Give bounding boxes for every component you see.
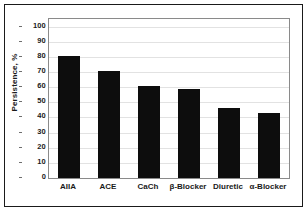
y-axis-tick-label: 30 (24, 128, 46, 136)
gridline (49, 57, 289, 58)
y-axis-tick-label: 40 (24, 112, 46, 120)
bar (138, 86, 160, 178)
y-axis-tick-label: 90 (24, 37, 46, 45)
x-axis-tick-labels: AIIAACECaChβ-BlockerDiureticα-Blocker (48, 182, 290, 196)
x-axis-tick-label: Diuretic (208, 182, 248, 192)
x-axis-tick-label: CaCh (128, 182, 168, 192)
y-axis-tick-mark (19, 177, 22, 178)
bar (98, 71, 120, 178)
y-axis-tick-label: 70 (24, 67, 46, 75)
chart-figure: Persistence, % 0102030405060708090100 AI… (0, 0, 308, 212)
gridline (49, 72, 289, 73)
plot-inner (49, 19, 289, 178)
x-axis-tick-label: AIIA (48, 182, 88, 192)
gridline (49, 133, 289, 134)
gridline (49, 117, 289, 118)
bar (178, 89, 200, 178)
gridline (49, 163, 289, 164)
gridline (49, 27, 289, 28)
y-axis-tick-mark (19, 116, 22, 117)
gridline (49, 87, 289, 88)
y-axis-tick-mark (19, 162, 22, 163)
y-axis-tick-label: 100 (24, 22, 46, 30)
y-axis-tick-mark (19, 41, 22, 42)
x-axis-tick-label: ACE (88, 182, 128, 192)
chart-canvas: Persistence, % 0102030405060708090100 AI… (0, 0, 308, 212)
y-axis-tick-label: 80 (24, 52, 46, 60)
bar (258, 113, 280, 178)
y-axis-tick-label: 50 (24, 97, 46, 105)
y-axis-tick-label: 20 (24, 143, 46, 151)
gridline (49, 102, 289, 103)
y-axis-tick-mark (19, 56, 22, 57)
y-axis-tick-label: 0 (24, 173, 46, 181)
y-axis-tick-labels: 0102030405060708090100 (22, 18, 46, 179)
y-axis-tick-mark (19, 132, 22, 133)
gridline (49, 148, 289, 149)
x-axis-tick-label: α-Blocker (248, 182, 288, 192)
y-axis-tick-label: 10 (24, 158, 46, 166)
y-axis-tick-mark (19, 86, 22, 87)
y-axis-tick-label: 60 (24, 82, 46, 90)
plot-area (48, 18, 290, 179)
y-axis-tick-mark (19, 147, 22, 148)
y-axis-title: Persistence, % (10, 23, 19, 143)
x-axis-tick-label: β-Blocker (168, 182, 208, 192)
gridline (49, 42, 289, 43)
y-axis-tick-mark (19, 101, 22, 102)
bar (218, 108, 240, 178)
y-axis-tick-mark (19, 71, 22, 72)
y-axis-tick-mark (19, 26, 22, 27)
bar (58, 56, 80, 178)
